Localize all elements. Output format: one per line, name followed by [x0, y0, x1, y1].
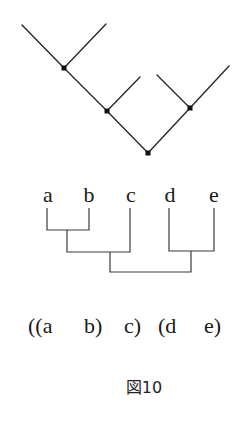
- edge-a: [22, 25, 64, 68]
- edge-n2-root: [107, 111, 148, 153]
- bracket-root: [110, 251, 191, 272]
- edge-b: [64, 24, 106, 68]
- figure-caption: 図10: [126, 378, 162, 397]
- edge-c: [107, 77, 140, 111]
- leaf-label-e: e: [209, 182, 219, 207]
- newick-notation: ((a b) c) (d e): [28, 313, 221, 338]
- newick-token: e): [204, 313, 221, 338]
- tree-diagram: a b c d e ((a b) c) (d e) 図10: [0, 0, 246, 424]
- node-n3: [188, 106, 193, 111]
- bracket-ab: [47, 208, 89, 230]
- edge-n1-n2: [64, 68, 107, 111]
- newick-token: b): [84, 313, 102, 338]
- edge-d: [157, 75, 190, 108]
- edge-e: [190, 66, 229, 108]
- newick-token: ((a: [28, 313, 53, 338]
- node-n2: [105, 109, 110, 114]
- leaf-label-c: c: [126, 182, 136, 207]
- node-n1: [62, 66, 67, 71]
- leaf-label-b: b: [84, 182, 95, 207]
- node-root: [146, 151, 151, 156]
- edge-n3-root: [148, 108, 190, 153]
- rooted-tree: [22, 24, 229, 156]
- newick-token: (d: [158, 313, 176, 338]
- leaf-label-d: d: [165, 182, 176, 207]
- cladogram: a b c d e: [43, 182, 219, 272]
- bracket-de: [169, 208, 214, 251]
- newick-token: c): [124, 313, 141, 338]
- leaf-label-a: a: [43, 182, 53, 207]
